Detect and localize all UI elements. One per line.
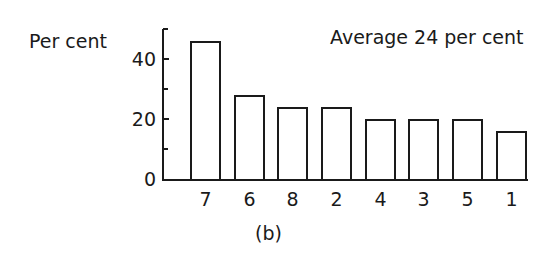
bar-3 — [409, 120, 438, 180]
bar-8 — [278, 108, 307, 180]
x-tick-5: 5 — [453, 188, 483, 210]
x-tick-1: 1 — [497, 188, 527, 210]
bar-1 — [497, 132, 526, 180]
bar-6 — [235, 96, 264, 180]
x-tick-8: 8 — [278, 188, 308, 210]
bar-7 — [191, 42, 220, 180]
x-tick-6: 6 — [235, 188, 265, 210]
bar-2 — [322, 108, 351, 180]
panel-label: (b) — [255, 222, 282, 244]
x-tick-4: 4 — [366, 188, 396, 210]
x-tick-2: 2 — [322, 188, 352, 210]
bars — [191, 42, 526, 180]
bar-4 — [366, 120, 395, 180]
x-tick-3: 3 — [409, 188, 439, 210]
x-tick-7: 7 — [191, 188, 221, 210]
bar-5 — [453, 120, 482, 180]
